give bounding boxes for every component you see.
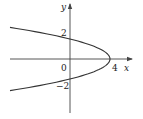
tick-label-x-4: 4 bbox=[112, 63, 118, 73]
tick-label-origin: 0 bbox=[61, 63, 67, 73]
tick-label-y-neg2: −2 bbox=[56, 81, 69, 91]
x-axis-label: x bbox=[124, 63, 129, 73]
parabola-diagram: y x 2 0 4 −2 bbox=[0, 0, 143, 119]
tick-label-y-2: 2 bbox=[61, 28, 67, 38]
y-axis-label: y bbox=[60, 2, 67, 12]
